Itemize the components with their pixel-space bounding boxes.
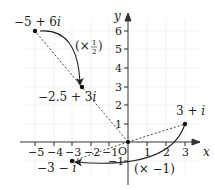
x-axis-arrow-icon [192, 139, 200, 145]
y-tick-3: 3 [115, 81, 122, 94]
x-tick-3: 3 [182, 146, 189, 159]
svg-text:(×: (× [75, 39, 90, 53]
point-p1 [33, 29, 37, 33]
label-p1: −5 + 6i [14, 15, 61, 29]
y-tick-5: 5 [115, 43, 122, 56]
point-p3 [183, 122, 187, 126]
y-axis-arrow-icon [125, 13, 131, 21]
label-scale-half: (× 1 2 ) [75, 39, 103, 56]
x-tick-neg5: −5 [28, 146, 44, 159]
point-origin [126, 140, 130, 144]
scale-half-arrow [40, 31, 80, 84]
y-axis-label: y [113, 9, 121, 23]
x-tick-neg1: −1 [102, 146, 118, 159]
x-axis-label: x [203, 145, 210, 159]
y-tick-6: 6 [115, 25, 122, 38]
point-p2 [80, 85, 84, 89]
svg-text:1: 1 [92, 39, 96, 47]
label-negate: (× −1) [134, 162, 175, 176]
svg-text:2: 2 [92, 48, 96, 56]
y-tick-1: 1 [115, 118, 122, 131]
y-tick-4: 4 [115, 62, 122, 75]
x-tick-labels: −5 −4 −3 −2 −1 1 2 3 [28, 146, 189, 159]
x-tick-neg2: −2 [84, 146, 100, 159]
label-p3: 3 + i [176, 104, 205, 118]
y-tick-2: 2 [115, 99, 122, 112]
svg-text:): ) [98, 39, 103, 53]
argand-diagram: y x O 6 5 4 3 2 1 −1 −5 −4 −3 −2 −1 1 2 … [0, 0, 215, 190]
label-p4: −3 − i [37, 161, 76, 175]
x-tick-neg4: −4 [47, 146, 63, 159]
label-p2: −2.5 + 3i [38, 90, 96, 104]
x-tick-neg3: −3 [65, 146, 81, 159]
